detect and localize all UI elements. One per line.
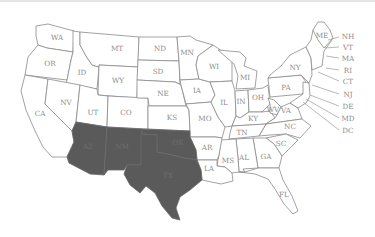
label-mn: MN — [180, 48, 194, 57]
label-me: ME — [316, 31, 329, 40]
label-de: DE — [342, 102, 353, 111]
state-fl[interactable] — [239, 168, 298, 214]
label-tn: TN — [236, 128, 247, 137]
label-nv: NV — [60, 98, 72, 107]
label-ri: RI — [344, 66, 352, 75]
label-ny: NY — [289, 63, 300, 72]
label-fl: FL — [279, 190, 289, 199]
label-az: AZ — [82, 142, 93, 151]
label-la: LA — [204, 164, 215, 173]
label-dc: DC — [342, 126, 354, 135]
label-ok: OK — [172, 138, 184, 147]
label-wy: WY — [112, 76, 124, 85]
label-wi: WI — [209, 62, 219, 71]
label-ut: UT — [88, 108, 99, 117]
label-ne: NE — [157, 89, 169, 98]
label-mi: MI — [240, 73, 250, 82]
label-il: IL — [220, 98, 228, 107]
label-ar: AR — [201, 143, 213, 152]
label-vt: VT — [342, 43, 353, 52]
label-ky: KY — [248, 114, 258, 123]
label-oh: OH — [252, 93, 264, 102]
label-or: OR — [44, 59, 56, 68]
label-nc: NC — [284, 122, 296, 131]
label-nd: ND — [154, 44, 166, 53]
label-ms: MS — [222, 156, 234, 165]
label-ga: GA — [261, 152, 273, 161]
label-md: MD — [341, 114, 354, 123]
label-ca: CA — [35, 109, 46, 118]
label-pa: PA — [281, 83, 291, 92]
us-map: WA OR CA ID NV MT WY UT CO AZ NM ND SD N… — [0, 0, 375, 237]
label-sd: SD — [153, 67, 164, 76]
label-mt: MT — [111, 44, 123, 53]
label-ks: KS — [167, 113, 177, 122]
label-sc: SC — [276, 139, 287, 148]
label-mo: MO — [198, 114, 211, 123]
label-in: IN — [236, 97, 245, 106]
label-wa: WA — [51, 33, 64, 42]
label-wv: WV — [267, 105, 280, 114]
label-nh: NH — [342, 32, 355, 41]
label-al: AL — [238, 153, 249, 162]
label-co: CO — [120, 108, 131, 117]
label-ia: IA — [193, 86, 202, 95]
label-va: VA — [280, 106, 292, 115]
label-nj: NJ — [343, 90, 352, 99]
label-tx: TX — [163, 171, 174, 180]
label-id: ID — [78, 68, 87, 77]
label-nm: NM — [115, 142, 129, 151]
label-ma: MA — [342, 54, 355, 63]
label-ct: CT — [343, 77, 353, 86]
